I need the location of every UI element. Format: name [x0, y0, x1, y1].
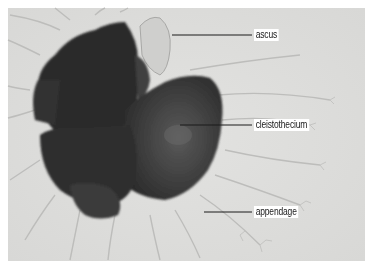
cleistothecium-highlight [164, 125, 192, 145]
ascus-label: ascus [254, 29, 279, 41]
cleistothecium-label: cleistothecium [254, 119, 309, 131]
micrograph-figure: ascus cleistothecium appendage [0, 0, 374, 268]
micrograph-image [0, 0, 374, 268]
appendage-label: appendage [254, 206, 298, 218]
